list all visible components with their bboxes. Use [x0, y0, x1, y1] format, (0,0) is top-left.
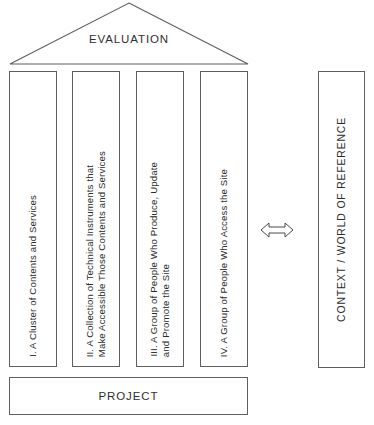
pillar-3-line-2: and Promote the Site	[161, 264, 171, 357]
pillar-2-text: II. A Collection of Technical Instrument…	[73, 72, 119, 366]
double-headed-arrow-icon	[260, 220, 294, 240]
pillar-1-contents-and-services: I. A Cluster of Contents and Services	[9, 71, 57, 367]
pillar-1-line-1: I. A Cluster of Contents and Services	[28, 195, 38, 357]
pillar-4-text: IV. A Group of People Who Access the Sit…	[201, 72, 247, 366]
evaluation-pillars-diagram: EVALUATION I. A Cluster of Contents and …	[0, 0, 374, 425]
pillar-2-line-1: II. A Collection of Technical Instrument…	[85, 165, 95, 357]
evaluation-label: EVALUATION	[8, 33, 250, 45]
pillar-1-text: I. A Cluster of Contents and Services	[10, 72, 56, 366]
pillar-4-visitors-group: IV. A Group of People Who Access the Sit…	[200, 71, 248, 367]
pillar-2-line-2: Make Accessible Those Contents and Servi…	[97, 151, 107, 357]
project-label: PROJECT	[99, 390, 159, 402]
pillar-3-line-1: III. A Group of People Who Produce, Upda…	[149, 162, 159, 357]
pillar-3-producers-group: III. A Group of People Who Produce, Upda…	[136, 71, 184, 367]
context-label: CONTEXT / WORLD OF REFERENCE	[336, 117, 347, 322]
context-label-wrap: CONTEXT / WORLD OF REFERENCE	[319, 72, 364, 367]
pillar-4-line-1: IV. A Group of People Who Access the Sit…	[219, 169, 229, 357]
pillar-2-technical-instruments: II. A Collection of Technical Instrument…	[72, 71, 120, 367]
project-base-bar: PROJECT	[9, 377, 248, 415]
pillar-3-text: III. A Group of People Who Produce, Upda…	[137, 72, 183, 366]
context-world-of-reference-box: CONTEXT / WORLD OF REFERENCE	[318, 71, 365, 368]
